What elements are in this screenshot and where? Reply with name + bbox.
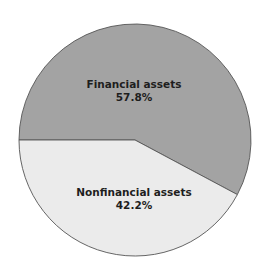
pie-slices [19,24,251,256]
slice-name-financial: Financial assets [87,78,182,90]
slice-value-financial: 57.8% [116,91,153,103]
slice-name-nonfinancial: Nonfinancial assets [76,186,191,198]
pie-chart: Financial assets 57.8% Nonfinancial asse… [0,0,268,273]
slice-value-nonfinancial: 42.2% [116,199,153,211]
